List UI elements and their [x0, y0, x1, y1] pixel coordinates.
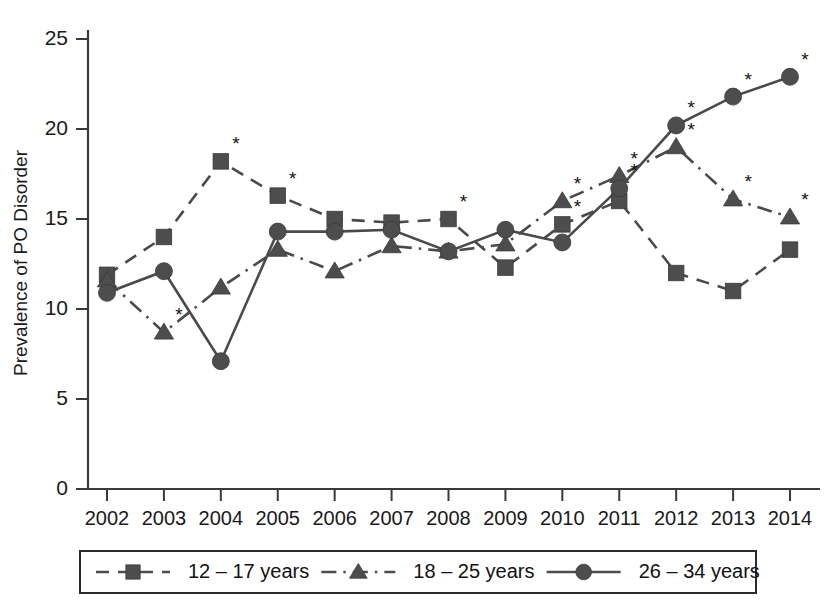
- data-point-triangle: [723, 190, 742, 206]
- data-point-triangle: [553, 192, 572, 208]
- significance-star: *: [801, 49, 809, 70]
- data-point-circle: [326, 223, 343, 240]
- significance-markers-group: **************: [175, 49, 809, 326]
- x-tick-label: 2004: [199, 507, 244, 529]
- data-point-triangle: [780, 208, 799, 224]
- data-point-square: [555, 217, 571, 233]
- data-point-circle: [212, 353, 229, 370]
- significance-star: *: [460, 191, 468, 212]
- x-tick-label: 2005: [256, 507, 301, 529]
- y-tick-label: 25: [45, 26, 68, 49]
- y-tick-label: 15: [45, 206, 68, 229]
- series-line-triangle: [107, 147, 790, 332]
- data-point-square: [213, 154, 229, 170]
- y-axis-ticks: 0510152025: [45, 26, 88, 499]
- data-point-circle: [440, 243, 457, 260]
- significance-star: *: [574, 196, 582, 217]
- y-tick-label: 20: [45, 116, 68, 139]
- data-point-triangle: [667, 138, 686, 154]
- y-axis-title: Prevalence of PO Disorder: [10, 149, 31, 376]
- data-point-square: [725, 283, 741, 299]
- data-point-square: [126, 565, 140, 579]
- y-axis-title-text: Prevalence of PO Disorder: [10, 149, 31, 376]
- prevalence-line-chart: Prevalence of PO Disorder 0510152025 200…: [0, 0, 832, 601]
- x-tick-label: 2010: [540, 507, 585, 529]
- data-point-circle: [99, 284, 116, 301]
- x-tick-label: 2007: [369, 507, 414, 529]
- data-point-circle: [576, 564, 592, 580]
- x-tick-label: 2014: [768, 507, 813, 529]
- significance-star: *: [744, 171, 752, 192]
- x-tick-label: 2013: [711, 507, 756, 529]
- significance-star: *: [687, 119, 695, 140]
- data-point-triangle: [325, 262, 344, 278]
- legend-label-2: 18 – 25 years: [413, 560, 534, 582]
- data-point-square: [668, 265, 684, 281]
- x-tick-label: 2009: [483, 507, 528, 529]
- y-tick-label: 10: [45, 296, 68, 319]
- data-point-square: [498, 260, 513, 276]
- data-point-square: [156, 229, 172, 245]
- data-point-circle: [782, 68, 799, 85]
- significance-star: *: [289, 168, 297, 189]
- significance-star: *: [744, 69, 752, 90]
- significance-star: *: [631, 160, 639, 181]
- significance-star: *: [175, 304, 183, 325]
- data-point-triangle: [382, 237, 401, 253]
- data-point-square: [782, 242, 798, 258]
- data-point-circle: [668, 117, 685, 134]
- data-point-circle: [497, 221, 514, 238]
- data-point-circle: [383, 221, 400, 238]
- y-tick-label: 5: [56, 386, 68, 409]
- chart-legend: 12 – 17 years18 – 25 years26 – 34 years: [80, 551, 760, 593]
- data-point-square: [270, 188, 286, 204]
- data-point-triangle: [211, 278, 230, 294]
- legend-label-1: 12 – 17 years: [188, 560, 309, 582]
- significance-star: *: [801, 189, 809, 210]
- x-tick-label: 2002: [85, 507, 130, 529]
- data-point-circle: [611, 180, 628, 197]
- x-tick-label: 2006: [312, 507, 357, 529]
- data-point-circle: [155, 263, 172, 280]
- data-point-circle: [554, 234, 571, 251]
- y-tick-label: 0: [56, 476, 68, 499]
- significance-star: *: [687, 97, 695, 118]
- chart-container: Prevalence of PO Disorder 0510152025 200…: [0, 0, 832, 601]
- data-point-circle: [269, 223, 286, 240]
- x-axis-ticks: 2002200320042005200620072008200920102011…: [85, 489, 813, 529]
- x-tick-label: 2008: [426, 507, 471, 529]
- data-point-square: [441, 211, 457, 227]
- x-tick-label: 2003: [142, 507, 187, 529]
- x-tick-label: 2011: [598, 507, 641, 529]
- significance-star: *: [232, 133, 240, 154]
- data-point-circle: [725, 88, 742, 105]
- chart-axes: [88, 30, 820, 489]
- significance-star: *: [574, 173, 582, 194]
- legend-label-3: 26 – 34 years: [639, 560, 760, 582]
- x-tick-label: 2012: [654, 507, 699, 529]
